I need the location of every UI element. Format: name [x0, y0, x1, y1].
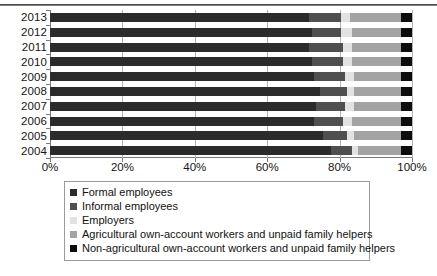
bar-segment [50, 13, 309, 22]
bar-segment [314, 72, 345, 81]
bar-row [50, 146, 412, 155]
x-tick-label: 80% [328, 160, 351, 174]
y-tick-label: 2011 [1, 41, 47, 53]
bar-segment [50, 102, 316, 111]
legend-item-label: Non-agricultural own-account workers and… [82, 242, 395, 255]
bar-segment [50, 117, 314, 126]
bar-segment [343, 57, 352, 66]
x-tick-label: 60% [256, 160, 279, 174]
y-tick-mark [46, 25, 50, 26]
gridline [412, 10, 413, 158]
bar-segment [352, 28, 401, 37]
bar-segment [401, 87, 412, 96]
bar-segment [50, 72, 314, 81]
bar-segment [309, 13, 342, 22]
bar-segment [350, 13, 401, 22]
bar-segment [50, 146, 331, 155]
y-tick-mark [46, 158, 50, 159]
stacked-bar-chart: 2013201220112010200920082007200620052004… [0, 10, 437, 168]
bar-row [50, 57, 412, 66]
bar-row [50, 28, 412, 37]
bar-segment [352, 117, 401, 126]
bar-segment [401, 102, 412, 111]
bar-segment [347, 87, 354, 96]
legend-item[interactable]: Employers [70, 214, 364, 227]
bar-segment [50, 43, 309, 52]
x-tick-label: 100% [397, 160, 426, 174]
x-tick-label: 40% [183, 160, 206, 174]
bar-segment [345, 72, 354, 81]
legend-item-label: Agricultural own-account workers and unp… [82, 228, 372, 241]
legend-item[interactable]: Formal employees [70, 186, 364, 199]
bar-segment [323, 131, 347, 140]
bar-segment [343, 117, 352, 126]
top-horizontal-rule [0, 4, 437, 6]
y-tick-mark [46, 99, 50, 100]
legend-item-label: Formal employees [82, 186, 172, 199]
bar-row [50, 72, 412, 81]
y-tick-mark [46, 69, 50, 70]
bar-segment [401, 131, 412, 140]
x-tick-label: 20% [111, 160, 134, 174]
x-tick-label: 0% [42, 160, 59, 174]
y-tick-mark [46, 54, 50, 55]
bar-segment [401, 72, 412, 81]
legend-swatch-icon [70, 231, 77, 238]
bar-segment [401, 28, 412, 37]
y-axis-category-labels: 2013201220112010200920082007200620052004 [0, 10, 47, 158]
bar-segment [314, 117, 343, 126]
bar-segment [312, 57, 343, 66]
bar-segment [320, 87, 347, 96]
y-tick-label: 2004 [1, 145, 47, 157]
bar-segment [50, 87, 320, 96]
bar-row [50, 87, 412, 96]
bar-segment [345, 102, 354, 111]
bar-segment [50, 57, 312, 66]
bar-segment [316, 102, 345, 111]
bar-segment [50, 131, 323, 140]
legend-item[interactable]: Agricultural own-account workers and unp… [70, 228, 364, 241]
y-tick-mark [46, 40, 50, 41]
bar-segment [352, 43, 401, 52]
bar-segment [312, 28, 341, 37]
bar-segment [331, 146, 353, 155]
legend-swatch-icon [70, 245, 77, 252]
bar-segment [358, 146, 401, 155]
bar-segment [341, 13, 350, 22]
chart-legend: Formal employeesInformal employeesEmploy… [64, 181, 370, 261]
plot-area [50, 10, 412, 158]
y-tick-label: 2008 [1, 85, 47, 97]
bar-segment [309, 43, 343, 52]
bar-segment [354, 102, 401, 111]
legend-swatch-icon [70, 203, 77, 210]
y-tick-label: 2005 [1, 130, 47, 142]
legend-item[interactable]: Non-agricultural own-account workers and… [70, 242, 364, 255]
legend-swatch-icon [70, 189, 77, 196]
bar-segment [341, 28, 352, 37]
y-tick-mark [46, 10, 50, 11]
bar-row [50, 131, 412, 140]
y-tick-label: 2009 [1, 71, 47, 83]
y-tick-label: 2013 [1, 11, 47, 23]
bar-segment [354, 131, 401, 140]
legend-swatch-icon [70, 217, 77, 224]
bar-segment [401, 117, 412, 126]
x-axis-tick-labels: 0%20%40%60%80%100% [0, 160, 437, 176]
bar-segment [343, 43, 352, 52]
y-tick-mark [46, 128, 50, 129]
bar-segment [50, 28, 312, 37]
y-tick-mark [46, 143, 50, 144]
legend-item[interactable]: Informal employees [70, 200, 364, 213]
y-tick-mark [46, 84, 50, 85]
bar-row [50, 43, 412, 52]
y-tick-label: 2012 [1, 26, 47, 38]
bar-segment [401, 13, 412, 22]
bar-row [50, 13, 412, 22]
bar-segment [352, 57, 401, 66]
y-tick-label: 2006 [1, 115, 47, 127]
y-tick-label: 2010 [1, 56, 47, 68]
y-tick-mark [46, 114, 50, 115]
bar-segment [354, 87, 401, 96]
bar-segment [347, 131, 354, 140]
legend-item-label: Employers [82, 214, 134, 227]
